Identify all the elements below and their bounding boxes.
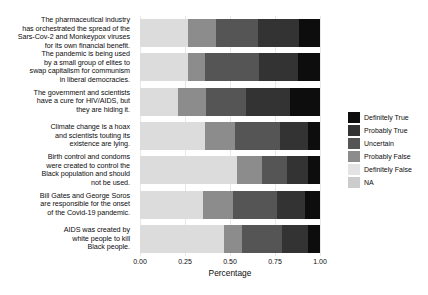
bar-segment xyxy=(140,53,188,81)
legend-item[interactable]: Definitely False xyxy=(348,163,426,176)
bar-stack xyxy=(140,88,320,116)
bar-segment xyxy=(282,225,308,253)
y-axis-label: Birth control and condoms were created t… xyxy=(0,153,130,187)
bar-segment xyxy=(246,88,290,116)
legend-label: NA xyxy=(364,179,374,186)
bar-segment xyxy=(140,88,178,116)
bar-segment xyxy=(262,156,287,184)
legend: Definitely TrueProbably TrueUncertainPro… xyxy=(348,111,426,189)
bar-segment xyxy=(188,19,216,47)
legend-item[interactable]: Uncertain xyxy=(348,137,426,150)
y-axis-label: The pharmaceutical industry has orchestr… xyxy=(0,16,130,50)
bar-segment xyxy=(308,122,320,150)
bar-segment xyxy=(290,88,320,116)
bar-segment xyxy=(140,122,205,150)
bar-segment xyxy=(140,191,203,219)
bar-segment xyxy=(280,122,308,150)
bar-segment xyxy=(224,225,242,253)
legend-label: Probably True xyxy=(364,127,408,134)
bar-segment xyxy=(216,19,258,47)
bar-segment xyxy=(188,53,205,81)
legend-swatch-icon xyxy=(348,151,360,162)
bar-segment xyxy=(277,191,305,219)
bar-stack xyxy=(140,191,320,219)
legend-label: Uncertain xyxy=(364,140,394,147)
bar-segment xyxy=(237,156,262,184)
legend-swatch-icon xyxy=(348,177,360,188)
legend-item[interactable]: Probably False xyxy=(348,150,426,163)
legend-label: Definitely False xyxy=(364,166,412,173)
bar-segment xyxy=(305,191,320,219)
bar-segment xyxy=(233,191,277,219)
y-axis-label: Climate change is a hoax and scientists … xyxy=(0,123,130,149)
bar-segment xyxy=(242,225,282,253)
bar-segment xyxy=(205,53,259,81)
bar-segment xyxy=(287,156,308,184)
bar-segment xyxy=(308,156,320,184)
bar-segment xyxy=(235,122,280,150)
legend-swatch-icon xyxy=(348,138,360,149)
x-tick-label: 0.75 xyxy=(268,258,282,265)
x-tick-label: 1.00 xyxy=(313,258,327,265)
bar-segment xyxy=(206,88,246,116)
bar-segment xyxy=(258,19,299,47)
bar-segment xyxy=(298,53,320,81)
bar-segment xyxy=(259,53,298,81)
bar-segment xyxy=(203,191,233,219)
legend-label: Probably False xyxy=(364,153,411,160)
legend-swatch-icon xyxy=(348,164,360,175)
x-tick-label: 0.25 xyxy=(178,258,192,265)
bar-stack xyxy=(140,19,320,47)
bar-segment xyxy=(308,225,320,253)
stacked-bar-chart: The pharmaceutical industry has orchestr… xyxy=(0,0,428,295)
legend-item[interactable]: Definitely True xyxy=(348,111,426,124)
bar-stack xyxy=(140,225,320,253)
x-axis-title: Percentage xyxy=(140,268,320,278)
bar-segment xyxy=(140,156,237,184)
legend-label: Definitely True xyxy=(364,114,409,121)
x-tick-label: 0.50 xyxy=(223,258,237,265)
gridline xyxy=(320,16,321,256)
bar-stack xyxy=(140,156,320,184)
y-axis-label: Bill Gates and George Soros are responsi… xyxy=(0,192,130,218)
bar-stack xyxy=(140,122,320,150)
bar-stack xyxy=(140,53,320,81)
legend-item[interactable]: NA xyxy=(348,176,426,189)
bar-segment xyxy=(299,19,320,47)
legend-swatch-icon xyxy=(348,125,360,136)
legend-swatch-icon xyxy=(348,112,360,123)
y-axis-label: The pandemic is being used by a small gr… xyxy=(0,50,130,84)
bar-segment xyxy=(140,19,188,47)
bar-segment xyxy=(205,122,235,150)
bar-segment xyxy=(178,88,206,116)
y-axis-category-labels: The pharmaceutical industry has orchestr… xyxy=(0,16,134,256)
x-tick-label: 0.00 xyxy=(133,258,147,265)
bar-segment xyxy=(140,225,224,253)
y-axis-label: The government and scientists have a cur… xyxy=(0,89,130,115)
plot-area xyxy=(140,16,320,256)
y-axis-label: AIDS was created by white people to kill… xyxy=(0,226,130,252)
legend-item[interactable]: Probably True xyxy=(348,124,426,137)
